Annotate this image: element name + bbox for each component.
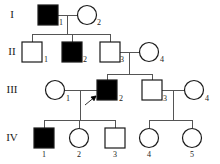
individual-number-ii-4: 4 — [160, 55, 164, 64]
generation-label-iii: III — [7, 83, 18, 95]
pedigree-chart: 121234123412345IIIIIIIV — [0, 0, 220, 164]
individual-iii-4-circle-unaffected[interactable] — [185, 81, 204, 100]
individual-number-iii-1: 1 — [66, 94, 70, 103]
individual-iv-2-circle-unaffected[interactable] — [70, 129, 89, 148]
individual-number-iii-2: 2 — [119, 94, 123, 103]
individual-iv-5-circle-unaffected[interactable] — [183, 129, 202, 148]
individual-ii-2-square-affected[interactable] — [62, 42, 82, 62]
individual-number-iv-4: 4 — [147, 150, 151, 159]
individual-iv-4-circle-unaffected[interactable] — [140, 129, 159, 148]
generation-label-ii: II — [8, 45, 16, 57]
individual-number-iii-3: 3 — [163, 94, 167, 103]
proband-arrow-head — [91, 96, 96, 101]
individual-ii-3-square-unaffected[interactable] — [100, 42, 120, 62]
proband-arrow-layer — [85, 96, 96, 105]
individual-ii-1-square-unaffected[interactable] — [22, 42, 42, 62]
individual-iii-1-circle-unaffected[interactable] — [46, 81, 65, 100]
individual-number-ii-3: 3 — [120, 55, 124, 64]
individual-iv-1-square-affected[interactable] — [34, 128, 54, 148]
individual-i-2-circle-unaffected[interactable] — [78, 6, 97, 25]
individual-iii-2-square-affected[interactable] — [97, 80, 117, 100]
individual-ii-4-circle-unaffected[interactable] — [140, 43, 159, 62]
individual-number-iv-2: 2 — [77, 150, 81, 159]
individual-number-iv-1: 1 — [42, 150, 46, 159]
individual-number-iv-3: 3 — [113, 150, 117, 159]
individual-number-i-1: 1 — [59, 18, 63, 27]
individual-number-ii-2: 2 — [83, 55, 87, 64]
individual-iv-3-square-unaffected[interactable] — [105, 128, 125, 148]
generation-label-i: I — [10, 8, 14, 20]
individual-number-i-2: 2 — [97, 18, 101, 27]
individual-i-1-square-affected[interactable] — [38, 5, 58, 25]
individual-number-iv-5: 5 — [190, 150, 194, 159]
individual-number-ii-1: 1 — [44, 55, 48, 64]
individual-symbols-layer — [22, 5, 204, 148]
individual-iii-3-square-unaffected[interactable] — [142, 80, 162, 100]
connection-lines-layer — [32, 15, 192, 128]
generation-label-iv: IV — [6, 131, 18, 143]
individual-number-iii-4: 4 — [205, 94, 209, 103]
pedigree-diagram: 121234123412345IIIIIIIV — [0, 0, 220, 164]
